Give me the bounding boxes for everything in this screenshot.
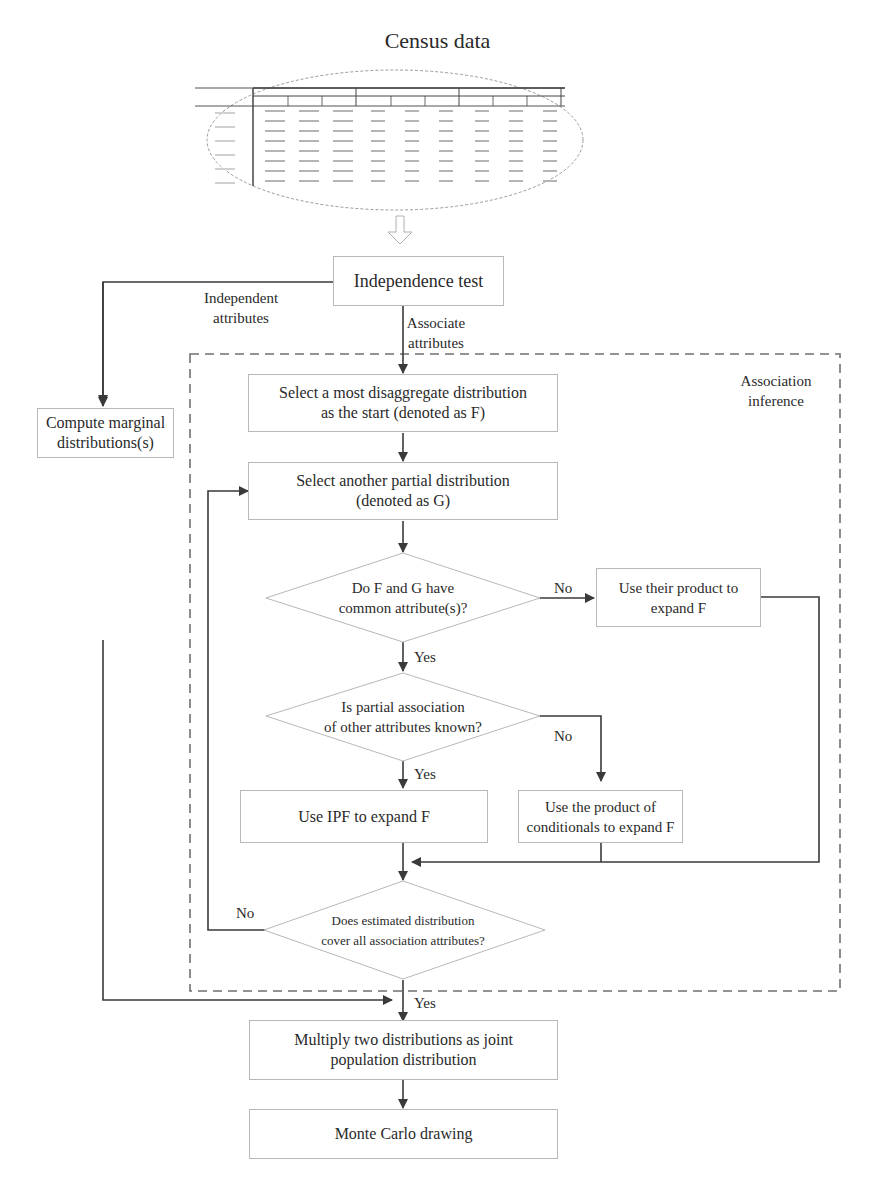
- no-label-partial: No: [554, 726, 572, 746]
- multiply-distributions-box: Multiply two distributions as joint popu…: [249, 1020, 558, 1080]
- select-start-box: Select a most disaggregate distribution …: [248, 374, 558, 432]
- decision-common-text: Do F and G have common attribute(s)?: [283, 578, 523, 618]
- associate-attributes-label: Associate attributes: [391, 313, 481, 353]
- compute-marginal-box: Compute marginal distributions(s): [37, 408, 174, 458]
- no-label-common: No: [554, 578, 572, 598]
- no-label-cover: No: [236, 903, 254, 923]
- decision-cover-text: Does estimated distribution cover all as…: [283, 911, 523, 951]
- association-inference-label: Association inference: [726, 371, 826, 411]
- select-another-box: Select another partial distribution (den…: [248, 462, 558, 520]
- independent-attributes-label: Independent attributes: [196, 288, 286, 328]
- independence-test-box: Independence test: [333, 256, 504, 306]
- association-inference-region: [190, 354, 840, 991]
- hollow-arrow-icon: [388, 216, 412, 244]
- use-ipf-box: Use IPF to expand F: [240, 790, 488, 843]
- yes-label-cover: Yes: [414, 993, 436, 1013]
- decision-partial-text: Is partial association of other attribut…: [283, 697, 523, 737]
- yes-label-common: Yes: [414, 647, 436, 667]
- yes-label-partial: Yes: [414, 764, 436, 784]
- use-conditionals-box: Use the product of conditionals to expan…: [518, 790, 683, 843]
- monte-carlo-box: Monte Carlo drawing: [249, 1109, 558, 1159]
- use-product-box: Use their product to expand F: [596, 568, 761, 627]
